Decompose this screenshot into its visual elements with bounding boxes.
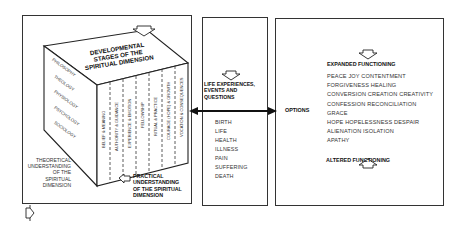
list-item: ALIENATION ISOLATION [327,127,433,136]
list-item: APATHY [327,136,433,145]
front-face-label: VOCATION & CONSEQUENCES [179,78,184,138]
label-line: UNDERSTANDING [133,179,182,185]
functioning-options-list: PEACE JOY CONTENTMENT FORGIVENESS HEALIN… [327,72,433,146]
hollow-arrow-right-icon [26,205,34,221]
hollow-arrow-down-icon [359,50,377,59]
practical-understanding-label: PRACTICAL UNDERSTANDING OF THE SPIRITUAL… [133,173,182,199]
list-item: DEATH [215,172,248,181]
front-face-label: COURAGE (HOPE) & GROWTH [166,82,171,140]
front-face-label: RITUAL & PRACTICE [153,97,158,136]
front-face-label: FELLOWSHIP [140,102,145,128]
front-face-label: AUTHORITY & GUIDANCE [114,102,119,151]
list-item: HEALTH [215,136,248,145]
list-item: CONFESSION RECONCILIATION [327,100,433,109]
front-face-label: BELIEF & MEANING [101,111,106,148]
list-item: PAIN [215,154,248,163]
altered-functioning-label: ALTERED FUNCTIONING [326,157,390,163]
options-label: OPTIONS [285,107,309,113]
list-item: FORGIVENESS HEALING [327,81,433,90]
list-item: CONVERSION CREATION CREATIVITY [327,90,433,99]
list-item: SUFFERING [215,163,248,172]
front-face-label: EXPERIENCE & EMOTION [127,99,132,148]
label-line: DIMENSION [133,192,182,198]
list-item: BIRTH [215,118,248,127]
theoretical-understanding-label: THEORETICAL UNDERSTANDING OF THE SPIRITU… [23,157,71,188]
life-experiences-title: LIFE EXPERIENCES, EVENTS AND QUESTIONS [204,81,255,100]
label-line: DIMENSION [23,182,71,188]
list-item: HOPE HOPELESSNESS DESPAIR [327,118,433,127]
list-item: LIFE [215,127,248,136]
list-item: PEACE JOY CONTENTMENT [327,72,433,81]
title-line: QUESTIONS [204,94,255,100]
double-headed-arrow-icon [189,107,277,115]
list-item: ILLNESS [215,145,248,154]
hollow-arrow-down-icon [222,71,240,80]
life-events-list: BIRTH LIFE HEALTH ILLNESS PAIN SUFFERING… [215,118,248,181]
expanded-functioning-label: EXPANDED FUNCTIONING [327,61,395,67]
list-item: GRACE [327,109,433,118]
